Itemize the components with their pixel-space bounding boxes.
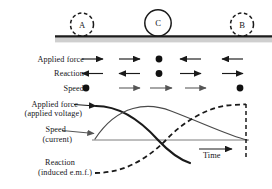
legend-speed-line2: (current) <box>42 135 72 144</box>
ground-surface <box>55 36 272 42</box>
figure-canvas: A C B <box>0 0 272 189</box>
row-label-speed: Speed <box>63 84 84 93</box>
marker-c-label: C <box>155 18 161 28</box>
legend-reaction-line2: (induced e.m.f.) <box>38 168 92 177</box>
time-axis-label: Time <box>203 151 220 160</box>
diagram-svg: A C B <box>0 0 272 189</box>
arrow-row-applied-force <box>82 56 243 63</box>
position-marker-a: A <box>71 13 94 36</box>
speed-leader-arrow <box>62 131 94 134</box>
legend-reaction-line1: Reaction <box>45 158 75 167</box>
position-marker-c: C <box>145 10 171 36</box>
arrow-row-speed <box>83 85 244 92</box>
marker-a-label: A <box>79 20 86 30</box>
arrow-row-reaction <box>82 70 243 77</box>
legend-speed-line1: Speed <box>45 125 66 134</box>
legend-applied-force-line1: Applied force <box>31 100 78 109</box>
reaction-curve <box>95 104 246 173</box>
marker-b-label: B <box>239 20 245 30</box>
row-label-reaction: Reaction <box>54 69 84 78</box>
graph-area <box>62 104 249 173</box>
row-label-applied-force: Applied force <box>37 55 84 64</box>
applied-force-curve <box>96 106 190 163</box>
position-marker-b: B <box>231 13 254 36</box>
legend-applied-force-line2: (applied voltage) <box>25 109 82 118</box>
